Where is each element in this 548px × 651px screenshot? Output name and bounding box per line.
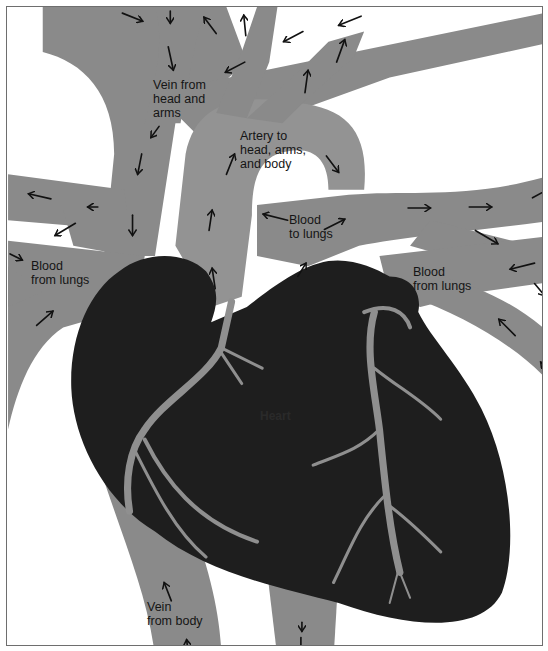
label-blood-to-lungs: Blood to lungs — [289, 213, 333, 241]
arrow-icon — [535, 284, 543, 296]
label-artery-head-arms-body: Artery to head, arms, and body — [240, 129, 306, 171]
label-blood-from-lungs-left: Blood from lungs — [31, 259, 89, 287]
label-vein-from-body: Vein from body — [147, 600, 203, 628]
label-heart: Heart — [260, 409, 291, 423]
arrow-icon — [339, 16, 361, 25]
arrow-icon — [284, 31, 303, 41]
label-blood-from-lungs-right: Blood from lungs — [413, 265, 471, 293]
arrow-icon — [244, 15, 246, 35]
circulation-illustration — [7, 7, 543, 646]
diagram-frame: Vein from head and arms Artery to head, … — [6, 6, 543, 646]
label-vein-head-arms: Vein from head and arms — [153, 78, 206, 120]
